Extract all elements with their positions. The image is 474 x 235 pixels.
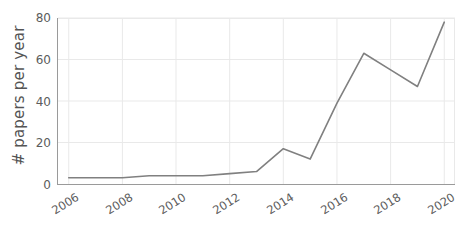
y-tick-label: 0 bbox=[17, 178, 51, 192]
plot-area bbox=[57, 18, 455, 185]
y-tick-label: 20 bbox=[17, 136, 51, 150]
x-tick-label: 2014 bbox=[246, 190, 296, 228]
y-tick-label: 60 bbox=[17, 53, 51, 67]
x-tick-label: 2012 bbox=[193, 190, 243, 228]
x-tick-label: 2008 bbox=[85, 190, 135, 228]
series-line-0 bbox=[69, 22, 445, 178]
y-tick-label: 40 bbox=[17, 95, 51, 109]
x-tick-label: 2018 bbox=[354, 190, 404, 228]
x-tick-label: 2020 bbox=[408, 190, 458, 228]
data-line-series bbox=[58, 18, 455, 184]
x-tick-label: 2006 bbox=[31, 190, 81, 228]
x-tick-label: 2016 bbox=[300, 190, 350, 228]
x-tick-label: 2010 bbox=[139, 190, 189, 228]
y-tick-label: 80 bbox=[17, 11, 51, 25]
chart-figure: # papers per year 020406080 200620082010… bbox=[0, 0, 474, 235]
